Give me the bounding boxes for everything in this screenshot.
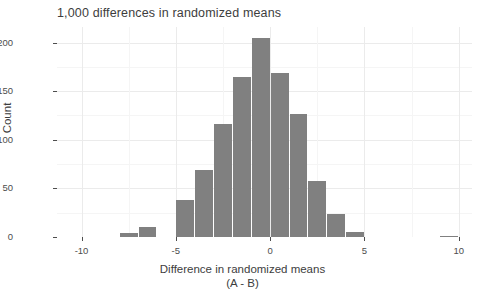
y-tick-mark bbox=[53, 237, 57, 238]
x-tick-mark bbox=[364, 237, 365, 241]
x-tick-label: 10 bbox=[453, 245, 464, 256]
histogram-bar bbox=[176, 200, 194, 237]
histogram-bar bbox=[214, 124, 232, 237]
histogram-bar bbox=[120, 233, 138, 237]
y-axis-label: Count bbox=[1, 103, 13, 134]
x-tick-label: 0 bbox=[268, 245, 273, 256]
chart-title: 1,000 differences in randomized means bbox=[57, 6, 281, 20]
histogram-bar bbox=[271, 73, 289, 237]
histogram-bar bbox=[233, 77, 251, 237]
y-tick-label: 150 bbox=[0, 85, 13, 96]
x-axis-label-line2: (A - B) bbox=[0, 276, 485, 290]
y-tick-mark bbox=[53, 188, 57, 189]
x-tick-label: -5 bbox=[172, 245, 180, 256]
y-tick-mark bbox=[53, 91, 57, 92]
histogram-bar bbox=[290, 114, 308, 237]
x-axis-label-line1: Difference in randomized means bbox=[0, 262, 485, 276]
y-tick-label: 100 bbox=[0, 134, 13, 145]
x-tick-mark bbox=[82, 237, 83, 241]
gridline-x-minor bbox=[129, 27, 130, 237]
x-tick-mark bbox=[270, 237, 271, 241]
plot-panel bbox=[57, 27, 472, 237]
y-tick-label: 200 bbox=[0, 37, 13, 48]
gridline-x bbox=[459, 27, 460, 237]
gridline-x-minor bbox=[412, 27, 413, 237]
x-tick-mark bbox=[176, 237, 177, 241]
y-tick-label: 0 bbox=[8, 231, 13, 242]
histogram-bar bbox=[195, 170, 213, 237]
gridline-x bbox=[364, 27, 365, 237]
histogram-bar bbox=[139, 227, 157, 237]
histogram-bar bbox=[346, 232, 364, 237]
gridline-x bbox=[82, 27, 83, 237]
x-tick-mark bbox=[459, 237, 460, 241]
y-tick-mark bbox=[53, 43, 57, 44]
histogram-bar bbox=[252, 38, 270, 237]
y-tick-mark bbox=[53, 140, 57, 141]
histogram-bar bbox=[440, 236, 458, 238]
x-axis-label: Difference in randomized means (A - B) bbox=[0, 262, 485, 290]
histogram-bar bbox=[327, 214, 345, 237]
x-tick-label: -10 bbox=[75, 245, 89, 256]
histogram-bar bbox=[308, 181, 326, 237]
x-tick-label: 5 bbox=[362, 245, 367, 256]
histogram-figure: 1,000 differences in randomized means 05… bbox=[0, 0, 485, 304]
y-tick-label: 50 bbox=[2, 182, 13, 193]
